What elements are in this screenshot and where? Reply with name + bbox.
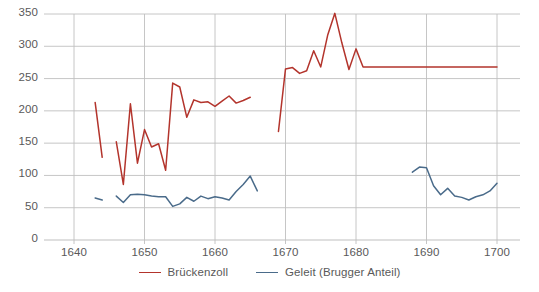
x-tick-label-1690: 1690 <box>405 246 449 258</box>
legend-item-label: Brückenzoll <box>168 266 229 278</box>
x-tick-label-1670: 1670 <box>264 246 308 258</box>
x-tick-label-1700: 1700 <box>475 246 519 258</box>
y-tick-label-300: 300 <box>4 38 38 50</box>
legend-item-brueckenzoll[interactable]: Brückenzoll <box>139 266 229 278</box>
vertical-gridlines <box>74 14 497 244</box>
y-tick-label-50: 50 <box>4 200 38 212</box>
y-tick-label-250: 250 <box>4 71 38 83</box>
legend-line-swatch-icon <box>256 272 278 273</box>
legend-line-swatch-icon <box>139 272 161 273</box>
x-tick-label-1680: 1680 <box>334 246 378 258</box>
series-line-0-segment-2 <box>278 13 497 131</box>
y-tick-label-350: 350 <box>4 6 38 18</box>
horizontal-gridlines <box>44 14 520 240</box>
legend-item-geleit[interactable]: Geleit (Brugger Anteil) <box>256 266 400 278</box>
series-line-0-segment-1 <box>116 83 250 184</box>
line-chart: 050100150200250300350 164016501660167016… <box>0 0 539 292</box>
x-tick-label-1660: 1660 <box>193 246 237 258</box>
y-tick-label-150: 150 <box>4 135 38 147</box>
y-tick-label-0: 0 <box>4 232 38 244</box>
y-tick-label-100: 100 <box>4 167 38 179</box>
x-tick-label-1650: 1650 <box>123 246 167 258</box>
series-line-1-segment-2 <box>412 167 497 200</box>
series-line-1-segment-0 <box>95 198 102 200</box>
chart-legend: BrückenzollGeleit (Brugger Anteil) <box>0 266 539 278</box>
series-lines <box>95 13 497 206</box>
legend-item-label: Geleit (Brugger Anteil) <box>285 266 400 278</box>
y-tick-label-200: 200 <box>4 103 38 115</box>
series-line-1-segment-1 <box>116 176 257 206</box>
x-tick-label-1640: 1640 <box>52 246 96 258</box>
